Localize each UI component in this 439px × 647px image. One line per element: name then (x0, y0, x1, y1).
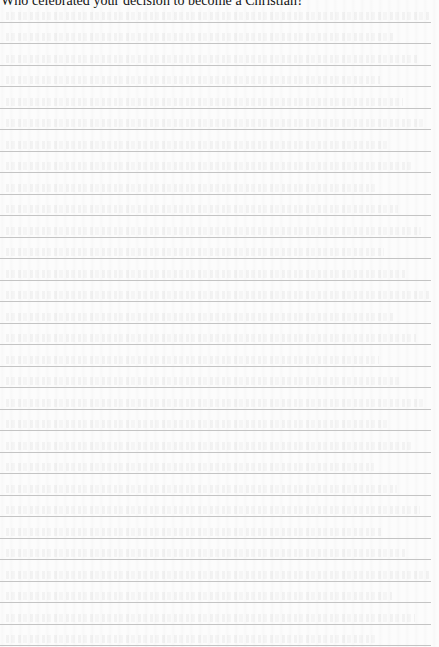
ruled-line (0, 129, 431, 130)
ruled-line (0, 495, 431, 496)
journal-page: Who celebrated your decision to become a… (0, 0, 439, 647)
ruled-line (0, 43, 431, 44)
ruled-line (0, 86, 431, 87)
ruled-line (0, 258, 431, 259)
ruled-line (0, 65, 431, 66)
ruled-line (0, 559, 431, 560)
ruled-line (0, 280, 431, 281)
ruled-line (0, 624, 431, 625)
ruled-line (0, 215, 431, 216)
ruled-line (0, 645, 431, 646)
ruled-line (0, 108, 431, 109)
ruled-writing-area[interactable] (0, 0, 439, 647)
ruled-line (0, 151, 431, 152)
ruled-line (0, 344, 431, 345)
ruled-line (0, 301, 431, 302)
ruled-line (0, 602, 431, 603)
ruled-line (0, 22, 431, 23)
ruled-line (0, 538, 431, 539)
ruled-line (0, 172, 431, 173)
ruled-line (0, 237, 431, 238)
ruled-line (0, 366, 431, 367)
ruled-line (0, 387, 431, 388)
ruled-line (0, 452, 431, 453)
ruled-line (0, 194, 431, 195)
ruled-line (0, 581, 431, 582)
ruled-line (0, 516, 431, 517)
ruled-line (0, 473, 431, 474)
ruled-line (0, 409, 431, 410)
ruled-line (0, 323, 431, 324)
ruled-line (0, 430, 431, 431)
